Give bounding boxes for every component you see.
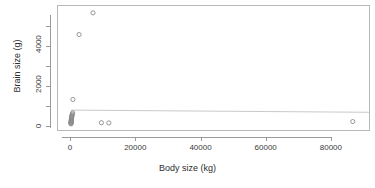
x-axis-tick-label: 60000 (255, 143, 277, 152)
x-axis-tick (201, 137, 202, 141)
x-axis-tick (70, 137, 71, 141)
data-point (351, 119, 355, 123)
x-axis-tick-label: 80000 (320, 143, 342, 152)
data-point (99, 121, 103, 125)
x-axis-tick (266, 137, 267, 141)
data-points-layer (58, 6, 369, 130)
x-axis-tick (331, 137, 332, 141)
x-axis-line (62, 137, 331, 138)
y-axis-tick (46, 86, 50, 87)
plot-area (57, 5, 370, 131)
y-axis-tick-label: 4000 (34, 39, 43, 53)
y-axis-line (50, 15, 51, 128)
y-axis-tick (46, 106, 50, 107)
x-axis-tick (135, 137, 136, 141)
y-axis-tick (46, 46, 50, 47)
y-axis-title: Brain size (g) (12, 16, 22, 116)
y-axis-tick (46, 126, 50, 127)
data-point (107, 121, 111, 125)
data-point (91, 11, 95, 15)
x-axis-title: Body size (kg) (0, 163, 375, 173)
data-point (77, 32, 81, 36)
y-axis-tick-label: 0 (34, 119, 43, 133)
y-axis-tick (46, 26, 50, 27)
data-point (71, 97, 75, 101)
x-axis-tick-label: 20000 (124, 143, 146, 152)
y-axis-tick (46, 66, 50, 67)
y-axis-tick-label: 2000 (34, 79, 43, 93)
x-axis-tick-label: 0 (68, 143, 72, 152)
x-axis-tick-label: 40000 (189, 143, 211, 152)
scatter-plot-figure: 020000400006000080000 020004000 Body siz… (0, 0, 375, 188)
